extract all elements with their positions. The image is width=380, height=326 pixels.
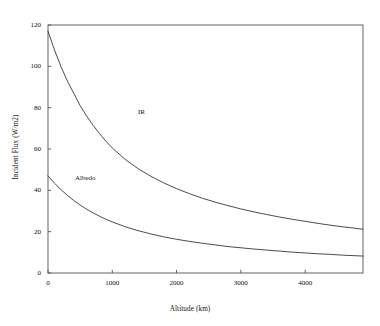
y-tick-label: 120 — [15, 21, 41, 29]
x-tick-label: 4000 — [285, 279, 325, 287]
y-tick-label: 20 — [15, 228, 41, 236]
data-series-lines — [48, 31, 363, 256]
series-line-ir — [48, 31, 363, 229]
series-label-albedo: Albedo — [75, 174, 96, 182]
y-tick-label: 0 — [15, 269, 41, 277]
x-tick-label: 1000 — [92, 279, 132, 287]
plot-frame — [48, 25, 363, 273]
x-axis-title: Altitude (km) — [0, 305, 380, 313]
chart-figure: 020406080100120 01000200030004000 IRAlbe… — [0, 0, 380, 326]
x-tick-label: 0 — [28, 279, 68, 287]
x-tick-label: 2000 — [157, 279, 197, 287]
x-tick-label: 3000 — [221, 279, 261, 287]
series-label-ir: IR — [138, 108, 145, 116]
plot-canvas — [0, 0, 380, 326]
series-line-albedo — [48, 176, 363, 256]
y-axis-title: Incident Flux (W/m2) — [12, 87, 20, 207]
y-tick-label: 100 — [15, 62, 41, 70]
axis-tick-marks — [48, 25, 305, 273]
